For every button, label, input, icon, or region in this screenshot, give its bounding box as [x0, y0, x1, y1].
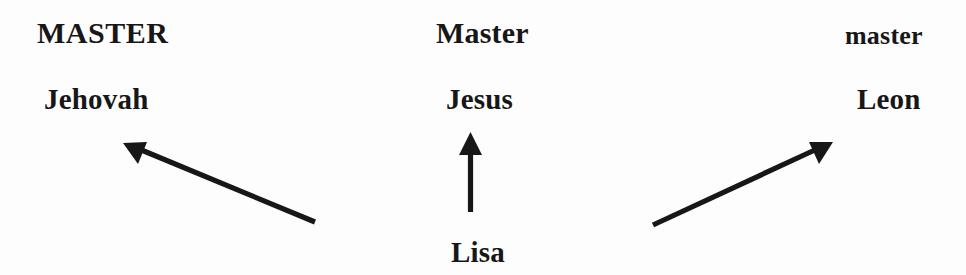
source-label-lisa: Lisa: [451, 238, 505, 267]
arrow-lisa-to-jehovah: [123, 142, 315, 222]
arrow-lisa-to-jesus: [459, 132, 482, 212]
referent-label-jesus: Jesus: [446, 85, 513, 114]
referent-label-jehovah: Jehovah: [44, 85, 149, 114]
diagram-canvas: MASTER Master master Jehovah Jesus Leon …: [0, 0, 966, 275]
sense-label-master-upper: MASTER: [37, 18, 168, 48]
referent-label-leon: Leon: [857, 85, 921, 114]
sense-label-master-lower: master: [845, 23, 923, 49]
arrow-lisa-to-leon: [653, 142, 833, 225]
sense-label-master-title: Master: [436, 18, 529, 48]
